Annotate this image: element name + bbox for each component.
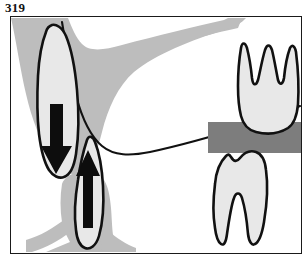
figure-number-label: 319 — [5, 1, 25, 15]
upper-right-molar — [238, 44, 298, 134]
figure-image-panel — [10, 16, 302, 254]
dental-eruption-illustration — [10, 16, 302, 254]
figure-container: 319 — [0, 0, 308, 260]
upper-right-molar-outline — [238, 44, 298, 134]
